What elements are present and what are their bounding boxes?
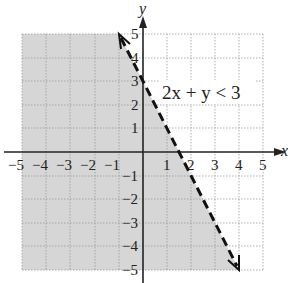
y-tick: 5 [131, 26, 139, 42]
y-tick: −3 [122, 215, 138, 231]
x-tick: 4 [235, 157, 243, 173]
y-tick: −2 [122, 191, 138, 207]
x-tick: −2 [80, 157, 96, 173]
x-tick: 3 [211, 157, 219, 173]
y-axis-label: y [137, 0, 147, 18]
y-tick: 3 [131, 73, 139, 89]
inequality-graph: x y −5 −4 −3 −2 −1 1 2 3 4 5 5 4 3 2 1 −… [0, 0, 288, 283]
y-tick: 2 [131, 97, 139, 113]
x-tick: −1 [104, 157, 120, 173]
y-tick: −1 [122, 168, 138, 184]
x-tick: −3 [56, 157, 72, 173]
x-tick: −5 [8, 157, 24, 173]
x-tick: 1 [163, 157, 171, 173]
x-tick: −4 [32, 157, 48, 173]
inequality-label: 2x + y < 3 [162, 82, 240, 103]
x-tick: 5 [259, 157, 267, 173]
y-tick: 1 [131, 120, 139, 136]
y-tick: −4 [122, 238, 138, 254]
y-tick: −5 [122, 262, 138, 278]
x-axis-label: x [280, 142, 288, 159]
y-axis-arrow-icon [139, 16, 147, 28]
